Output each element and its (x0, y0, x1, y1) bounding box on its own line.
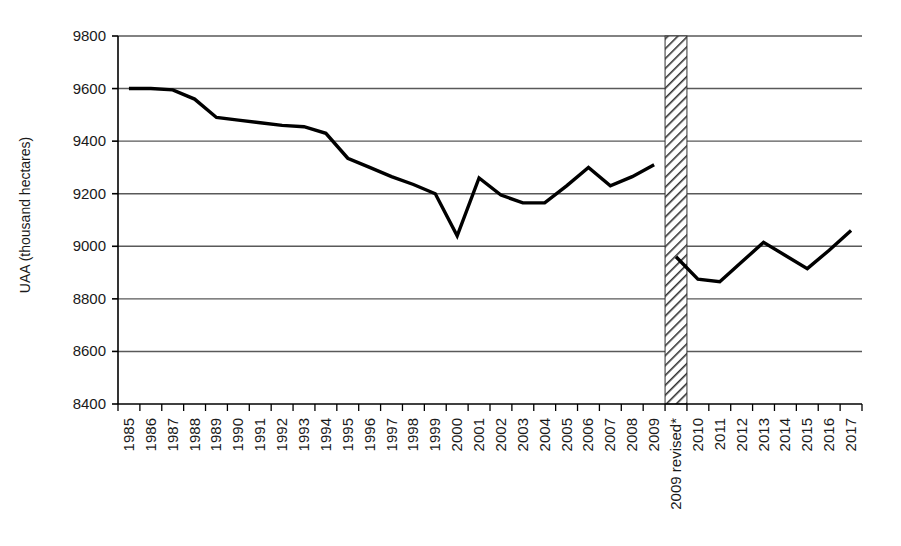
x-axis-tick-label: 2011 (711, 418, 728, 450)
y-axis-tick-label: 9800 (73, 27, 106, 44)
x-axis-tick-label: 1999 (426, 418, 443, 451)
x-axis-tick-label: 2016 (820, 418, 837, 451)
y-axis-tick-label: 9000 (73, 237, 106, 254)
y-axis-title: UAA (thousand hectares) (17, 137, 33, 293)
x-axis-tick-label: 1988 (186, 418, 203, 451)
x-axis-tick-label: 1995 (339, 418, 356, 451)
x-axis-tick-label: 1985 (120, 418, 137, 451)
x-axis-tick-label: 1997 (383, 418, 400, 451)
x-axis-tick-label: 1991 (251, 418, 268, 451)
x-axis-tick-label: 2006 (579, 418, 596, 451)
x-axis-tick-label: 2003 (514, 418, 531, 451)
y-axis-tick-label: 8600 (73, 342, 106, 359)
x-axis-tick-label: 2005 (558, 418, 575, 451)
x-axis-tick-label: 2017 (842, 418, 859, 451)
x-axis-tick-label: 1998 (404, 418, 421, 451)
x-axis-tick-label: 2013 (755, 418, 772, 451)
x-axis-tick-label: 2009 revised* (667, 418, 684, 510)
x-axis-tick-label: 1996 (361, 418, 378, 451)
x-axis-tick-label: 1987 (164, 418, 181, 451)
y-axis-tick-label: 8400 (73, 395, 106, 412)
y-axis-tick-label: 9600 (73, 80, 106, 97)
series-break-band (665, 36, 687, 404)
y-axis-tick-label: 9200 (73, 185, 106, 202)
x-axis-tick-label: 2015 (798, 418, 815, 451)
x-axis-tick-label: 2000 (448, 418, 465, 451)
x-axis-tick-label: 2007 (601, 418, 618, 451)
x-axis-tick-label: 1993 (295, 418, 312, 451)
chart-container: 84008600880090009200940096009800 1985198… (0, 0, 901, 546)
break-band-rect (665, 36, 687, 404)
x-axis-tick-label: 2008 (623, 418, 640, 451)
line-chart: 84008600880090009200940096009800 1985198… (0, 0, 901, 546)
x-axis-tick-label: 1986 (142, 418, 159, 451)
y-axis-tick-label: 9400 (73, 132, 106, 149)
x-axis-tick-label: 2014 (776, 418, 793, 451)
x-axis-tick-label: 2010 (689, 418, 706, 451)
x-axis-tick-label: 2002 (492, 418, 509, 451)
x-axis-tick-label: 2009 (645, 418, 662, 451)
x-axis-tick-label: 1990 (229, 418, 246, 451)
x-axis-tick-label: 1994 (317, 418, 334, 451)
x-axis-tick-label: 2004 (536, 418, 553, 451)
x-axis-tick-label: 2012 (733, 418, 750, 451)
x-axis-tick-label: 2001 (470, 418, 487, 451)
y-axis-tick-label: 8800 (73, 290, 106, 307)
x-axis-tick-label: 1992 (273, 418, 290, 451)
y-axis-title-label: UAA (thousand hectares) (17, 137, 33, 293)
chart-background (0, 0, 901, 546)
x-axis-tick-label: 1989 (207, 418, 224, 451)
